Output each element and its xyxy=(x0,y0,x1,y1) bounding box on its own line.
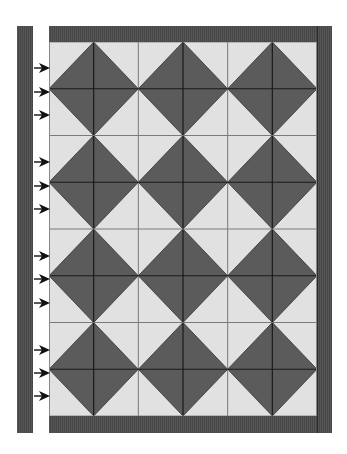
diamond-tile-pattern xyxy=(49,42,317,416)
bottom-border-strip xyxy=(49,416,317,433)
arrow-right-icon xyxy=(34,177,50,189)
arrow-right-icon xyxy=(34,247,50,259)
arrow-right-icon xyxy=(34,364,50,376)
arrow-right-icon xyxy=(34,294,50,306)
arrow-right-icon xyxy=(34,387,50,399)
arrow-right-icon xyxy=(34,59,50,71)
arrow-right-icon xyxy=(34,83,50,95)
arrow-right-icon xyxy=(34,341,50,353)
tile-field xyxy=(49,42,317,416)
arrow-right-icon xyxy=(34,106,50,118)
arrow-right-icon xyxy=(34,200,50,212)
arrow-right-icon xyxy=(34,153,50,165)
left-border-strip xyxy=(17,26,33,433)
arrow-right-icon xyxy=(34,270,50,282)
right-border-strip xyxy=(317,26,332,433)
top-border-strip xyxy=(49,26,317,42)
